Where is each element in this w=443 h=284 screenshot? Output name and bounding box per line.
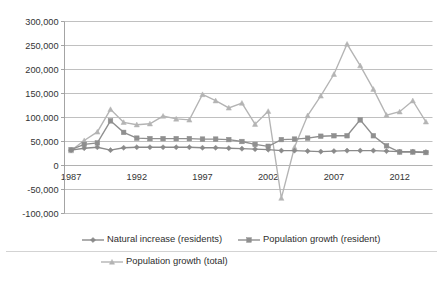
y-axis-tick-label: -100,000 [22, 209, 58, 219]
y-axis-tick-label: 300,000 [25, 17, 58, 27]
chart-canvas: -100,000-50,000050,000100,000150,000200,… [0, 0, 443, 284]
y-axis-tick-label: 100,000 [25, 113, 58, 123]
data-point-marker [187, 136, 192, 141]
data-point-marker [384, 144, 389, 149]
x-axis-tick-label: 1987 [61, 172, 81, 182]
data-point-marker [292, 137, 297, 142]
data-point-marker [213, 137, 218, 142]
data-point-marker [240, 139, 245, 144]
data-point-marker [121, 130, 126, 135]
data-point-marker [226, 137, 231, 142]
population-growth-chart: -100,000-50,000050,000100,000150,000200,… [0, 0, 443, 284]
x-axis-tick-label: 1992 [127, 172, 147, 182]
data-point-marker [174, 136, 179, 141]
legend-label: Population growth (resident) [263, 233, 380, 244]
data-point-marker [108, 119, 113, 124]
x-axis-tick-label: 2007 [324, 172, 344, 182]
y-axis-tick-label: 200,000 [25, 65, 58, 75]
y-axis-tick-label: 250,000 [25, 41, 58, 51]
data-point-marker [161, 136, 166, 141]
data-point-marker [253, 142, 258, 147]
y-axis-tick-labels: -100,000-50,000050,000100,000150,000200,… [22, 17, 64, 219]
y-axis-tick-label: 50,000 [30, 137, 58, 147]
y-axis-tick-label: -50,000 [27, 185, 58, 195]
legend-marker-swatch [247, 238, 252, 243]
x-axis-tick-label: 2002 [258, 172, 278, 182]
data-point-marker [148, 136, 153, 141]
data-point-marker [305, 136, 310, 141]
legend-label: Population growth (total) [126, 255, 228, 266]
y-axis-tick-label: 150,000 [25, 89, 58, 99]
x-axis-tick-label: 2012 [389, 172, 409, 182]
data-point-marker [200, 137, 205, 142]
data-point-marker [279, 137, 284, 142]
data-point-marker [332, 133, 337, 138]
data-point-marker [371, 133, 376, 138]
data-point-marker [358, 118, 363, 123]
y-axis-tick-label: 0 [53, 161, 58, 171]
data-point-marker [345, 133, 350, 138]
data-point-marker [318, 134, 323, 139]
x-axis-tick-label: 1997 [192, 172, 212, 182]
legend-label: Natural increase (residents) [107, 233, 222, 244]
data-point-marker [134, 136, 139, 141]
